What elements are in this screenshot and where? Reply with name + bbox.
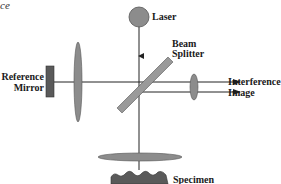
label-splitter: Splitter — [172, 49, 204, 59]
reference-mirror-icon — [46, 66, 54, 97]
interferometer-diagram: ce La — [0, 0, 281, 184]
specimen-icon — [111, 171, 168, 184]
reference-lens-icon — [74, 42, 82, 122]
objective-lens-icon — [98, 153, 182, 161]
label-laser: Laser — [152, 12, 176, 22]
beam-splitter-icon — [117, 57, 173, 113]
imaging-lens-icon — [190, 74, 198, 100]
label-mirror: Mirror — [14, 83, 44, 93]
laser-source-icon — [129, 7, 149, 27]
label-image: Image — [228, 88, 255, 98]
label-reference: Reference — [1, 72, 44, 82]
label-interference: Interference — [228, 77, 281, 87]
label-specimen: Specimen — [173, 175, 214, 184]
